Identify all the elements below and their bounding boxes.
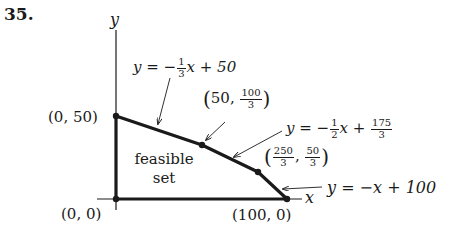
- arrow-constraint-3: [283, 187, 322, 189]
- vertex-250-3-50-3-label: (2503, 503): [264, 146, 329, 168]
- vertex-0-50: [113, 113, 119, 119]
- x-axis-label: x: [305, 190, 314, 206]
- arrow-vertex-50: [206, 122, 225, 140]
- feasible-set-label: feasible set: [129, 152, 199, 186]
- vertex-50-100-3-label: (50, 1003): [203, 88, 270, 110]
- vertex-0-50-label: (0, 50): [48, 110, 98, 125]
- vertex-100-0-label: (100, 0): [232, 208, 291, 223]
- problem-number: 35.: [4, 6, 34, 23]
- vertex-250-3-50-3: [255, 169, 261, 175]
- constraint-3-label: y = −x + 100: [327, 180, 436, 196]
- constraint-2-label: y = −12x + 1753: [286, 118, 393, 140]
- vertex-100-0: [284, 196, 290, 202]
- vertex-origin: [113, 196, 119, 202]
- arrow-constraint-1: [158, 78, 170, 124]
- vertex-origin-label: (0, 0): [61, 207, 101, 222]
- constraint-1-label: y = −13x + 50: [133, 57, 236, 79]
- vertex-50-100-3: [199, 142, 205, 148]
- y-axis-label: y: [110, 12, 119, 28]
